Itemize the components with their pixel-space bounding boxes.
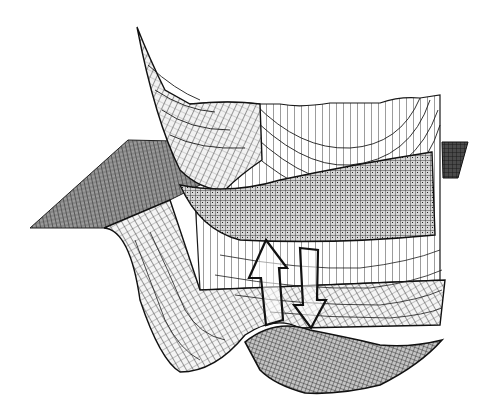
surface-svg xyxy=(0,0,494,411)
dark-plate-right xyxy=(442,142,468,178)
wireframe-surface-figure xyxy=(0,0,494,411)
lower-lobe xyxy=(245,326,442,393)
